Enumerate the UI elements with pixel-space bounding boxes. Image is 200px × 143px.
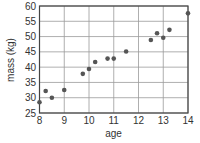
data-point	[87, 67, 92, 72]
data-point	[105, 56, 110, 61]
y-tick-label: 40	[25, 62, 37, 73]
y-axis-ticks: 2530354045505560	[25, 1, 37, 119]
y-tick-label: 25	[25, 108, 37, 119]
y-tick-label: 30	[25, 92, 37, 103]
y-tick-label: 35	[25, 77, 37, 88]
data-point	[167, 28, 172, 33]
y-tick-label: 55	[25, 16, 37, 27]
x-tick-label: 9	[61, 115, 67, 126]
chart-canvas: 891011121314 2530354045505560 age mass (…	[0, 0, 200, 143]
x-tick-label: 11	[109, 115, 120, 126]
x-axis-ticks: 891011121314	[37, 115, 194, 126]
y-axis-label: mass (kg)	[5, 38, 16, 82]
data-point	[111, 56, 116, 61]
scatter-chart: 891011121314 2530354045505560 age mass (…	[0, 0, 200, 143]
data-point	[37, 100, 42, 105]
data-point	[62, 88, 67, 93]
y-tick-label: 50	[25, 31, 37, 42]
y-tick-label: 45	[25, 46, 37, 57]
data-point	[155, 31, 160, 36]
data-point	[93, 60, 98, 65]
x-tick-label: 13	[158, 115, 170, 126]
data-point	[161, 35, 166, 40]
x-axis-label: age	[105, 128, 122, 139]
x-tick-label: 14	[182, 115, 194, 126]
x-tick-label: 12	[133, 115, 145, 126]
data-point	[186, 11, 191, 16]
x-tick-label: 8	[37, 115, 43, 126]
data-point	[149, 38, 154, 43]
data-point	[50, 95, 55, 100]
y-tick-label: 60	[25, 1, 37, 12]
data-point	[81, 72, 86, 77]
x-tick-label: 10	[83, 115, 95, 126]
data-point	[43, 89, 48, 94]
data-point	[124, 49, 129, 54]
